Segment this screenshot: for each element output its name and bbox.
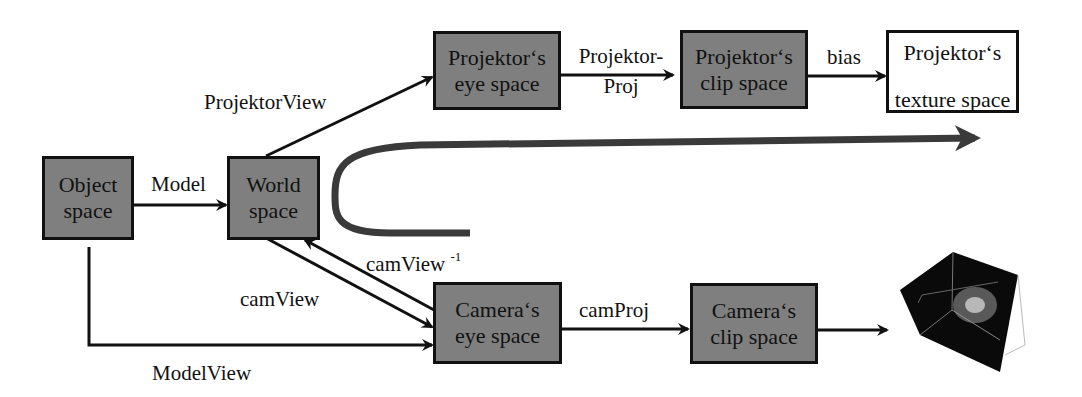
node-label: Projektor‘s	[448, 45, 546, 71]
node-label: eye space	[455, 323, 540, 349]
label-projektor-view: ProjektorView	[204, 90, 326, 114]
node-projektor-clip-space: Projektor‘s clip space	[680, 30, 808, 109]
node-label: Projektor‘s	[904, 41, 1002, 65]
node-label: clip space	[710, 324, 797, 350]
node-label: Camera‘s	[712, 298, 796, 324]
node-world-space: World space	[227, 156, 320, 240]
label-bias: bias	[827, 45, 861, 69]
diagram-canvas: Object space World space Projektor‘s eye…	[0, 0, 1082, 397]
node-label: texture space	[895, 88, 1010, 112]
node-label: Object	[59, 172, 118, 198]
label-cam-proj: camProj	[579, 298, 649, 322]
label-model: Model	[151, 172, 206, 196]
label-projektor-proj-line1: Projektor-	[565, 44, 677, 68]
label-model-view: ModelView	[152, 361, 251, 385]
label-cam-view-inv-sup: -1	[450, 249, 461, 264]
node-projektor-eye-space: Projektor‘s eye space	[433, 31, 561, 110]
node-label: World	[246, 172, 300, 198]
label-cam-view-inv-text: camView	[366, 252, 445, 276]
node-label: eye space	[455, 71, 540, 97]
label-cam-view: camView	[240, 287, 319, 311]
node-label: space	[249, 198, 298, 224]
flow-arrow	[335, 138, 975, 233]
label-projektor-proj: Projektor- Proj	[565, 44, 677, 98]
label-projektor-proj-line2: Proj	[565, 74, 677, 98]
node-label: Projektor‘s	[695, 44, 793, 70]
node-label: Camera‘s	[455, 297, 539, 323]
node-label: clip space	[700, 70, 787, 96]
node-object-space: Object space	[42, 156, 134, 240]
node-camera-clip-space: Camera‘s clip space	[690, 283, 818, 364]
node-camera-eye-space: Camera‘s eye space	[433, 282, 562, 364]
node-label: space	[64, 198, 113, 224]
rendered-cube-icon	[900, 252, 1025, 372]
label-cam-view-inv: camView -1	[366, 245, 461, 276]
node-projektor-texture-space: Projektor‘s texture space	[886, 30, 1019, 113]
